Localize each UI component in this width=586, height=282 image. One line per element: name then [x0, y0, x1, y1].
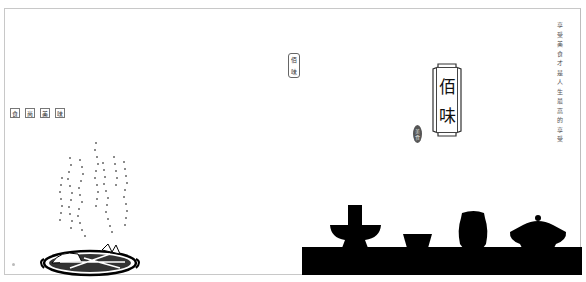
hotpot-icon	[41, 244, 139, 275]
lidded-pot-icon	[510, 215, 566, 248]
steam-icon	[59, 142, 128, 237]
illustrations	[0, 0, 586, 282]
small-bowl-icon	[403, 234, 432, 248]
jar-icon	[459, 211, 488, 248]
stem-bowl-icon	[330, 205, 381, 248]
table-surface	[302, 247, 582, 275]
